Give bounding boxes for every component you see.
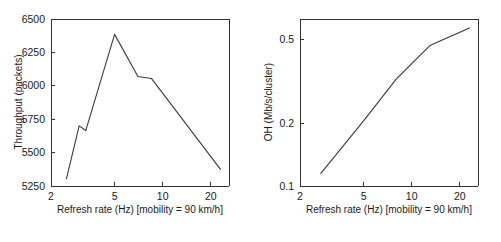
x-ticklabel: 20: [205, 190, 217, 202]
chart-panel-left: 525055005750600062506500 251020 Refresh …: [0, 0, 250, 242]
left-frame-top-right: [51, 19, 229, 186]
right-yaxis-title: OH (Mb/s/cluster): [263, 63, 274, 141]
x-ticklabel: 10: [406, 190, 418, 202]
right-axes: [300, 19, 478, 186]
y-ticklabel: 0.1: [279, 180, 294, 192]
left-x-ticklabels: 251020: [48, 190, 217, 202]
y-ticklabel: 5500: [22, 146, 46, 158]
right-xaxis-title: Refresh rate (Hz) [mobility = 90 km/h]: [306, 204, 472, 215]
x-ticklabel: 2: [297, 190, 303, 202]
y-ticklabel: 6000: [22, 79, 46, 91]
left-xaxis-title: Refresh rate (Hz) [mobility = 90 km/h]: [57, 204, 223, 215]
right-chart-svg: 0.10.20.5 251020 Refresh rate (Hz) [mobi…: [250, 0, 501, 242]
right-x-ticks: [364, 182, 460, 186]
left-axes: [51, 19, 229, 186]
x-ticklabel: 5: [112, 190, 118, 202]
right-y-ticklabels: 0.10.20.5: [279, 33, 294, 191]
y-ticklabel: 6500: [22, 13, 46, 25]
right-frame-top-right: [300, 19, 478, 186]
left-y-ticks: [51, 19, 55, 153]
left-chart-svg: 525055005750600062506500 251020 Refresh …: [0, 0, 250, 242]
y-ticklabel: 5250: [22, 180, 46, 192]
right-y-ticks: [300, 40, 304, 123]
right-x-ticklabels: 251020: [297, 190, 466, 202]
right-plot-frame: [300, 19, 478, 186]
left-plot-frame: [51, 19, 229, 186]
y-ticklabel: 6250: [22, 46, 46, 58]
x-ticklabel: 5: [361, 190, 367, 202]
x-ticklabel: 10: [157, 190, 169, 202]
x-ticklabel: 2: [48, 190, 54, 202]
left-y-ticklabels: 525055005750600062506500: [22, 13, 46, 192]
y-ticklabel: 0.2: [279, 117, 294, 129]
chart-panel-right: 0.10.20.5 251020 Refresh rate (Hz) [mobi…: [250, 0, 500, 242]
figure-container: 525055005750600062506500 251020 Refresh …: [0, 0, 501, 242]
left-x-ticks: [115, 182, 211, 186]
left-yaxis-title: Throughput (packets): [13, 54, 24, 149]
y-ticklabel: 5750: [22, 113, 46, 125]
throughput-series-line: [66, 34, 220, 178]
x-ticklabel: 20: [454, 190, 466, 202]
y-ticklabel: 0.5: [279, 33, 294, 45]
oh-series-line: [321, 28, 470, 173]
